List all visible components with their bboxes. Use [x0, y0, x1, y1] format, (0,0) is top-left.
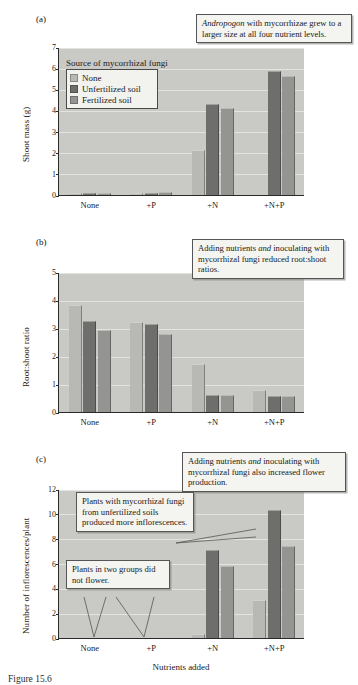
bar — [145, 324, 158, 412]
panel-c-callout-top: Adding nutrients and inoculating with my… — [182, 452, 346, 492]
legend-swatch-none-icon — [70, 74, 78, 82]
legend-label-fertilized: Fertilized soil — [82, 95, 132, 105]
legend-label-unfertilized: Unfertilized soil — [82, 84, 141, 94]
panel-b-callout-and: and — [258, 243, 271, 253]
panel-c-callout-top-and: and — [248, 456, 261, 466]
panel-c-letter: (c) — [36, 454, 46, 464]
y-axis-tick-mark — [56, 490, 59, 491]
bar — [206, 395, 219, 412]
y-axis-tick-mark — [56, 153, 59, 154]
bar — [192, 150, 205, 195]
legend-swatch-fertilized-icon — [70, 96, 78, 104]
panel-a-legend-title: Source of mycorrhizal fungi — [66, 58, 168, 68]
panel-c-callout-mid-text: Plants with mycorrhizal fungi from unfer… — [82, 496, 187, 527]
x-axis-tick-label: None — [81, 643, 99, 653]
bar — [192, 364, 205, 412]
bar — [253, 390, 266, 412]
x-axis-tick-label: +N — [207, 643, 218, 653]
panel-b-plot-area: 012345None+P+N+N+P — [58, 273, 304, 413]
bar — [159, 192, 172, 195]
gridline — [59, 48, 304, 49]
panel-c-callout-low-text: Plants in two groups did not flower. — [72, 564, 156, 585]
y-axis-tick-mark — [56, 90, 59, 91]
y-axis-tick-mark — [56, 539, 59, 540]
bar — [221, 395, 234, 412]
x-axis-tick-label: +P — [146, 417, 156, 427]
legend-item-none: None — [70, 72, 152, 83]
bar — [69, 305, 82, 412]
bar — [206, 104, 219, 195]
panel-a-y-axis-label: Shoot mass (g) — [21, 52, 31, 162]
panel-c-y-axis-label: Number of inflorescences/plant — [21, 486, 31, 634]
x-axis-tick-label: +P — [146, 200, 156, 210]
y-axis-tick-mark — [56, 69, 59, 70]
bar — [83, 321, 96, 412]
x-axis-tick-label: +N+P — [264, 200, 284, 210]
x-axis-tick-label: +N — [207, 200, 218, 210]
bar — [282, 546, 295, 639]
y-axis-tick-mark — [56, 174, 59, 175]
legend-swatch-unfertilized-icon — [70, 85, 78, 93]
bar — [268, 396, 281, 412]
bar — [145, 193, 158, 195]
panel-b-letter: (b) — [36, 237, 47, 247]
bar — [268, 510, 281, 638]
y-axis-tick-mark — [56, 589, 59, 590]
panel-c-leader-lines — [58, 595, 198, 641]
panel-a-letter: (a) — [36, 14, 46, 24]
panel-b-y-axis-label: Root:shoot ratio — [21, 277, 31, 387]
legend-item-unfertilized: Unfertilized soil — [70, 83, 152, 94]
legend-item-fertilized: Fertilized soil — [70, 94, 152, 105]
panel-c-callout-mid: Plants with mycorrhizal fungi from unfer… — [76, 492, 194, 532]
bar — [98, 330, 111, 412]
panel-c-callout-low: Plants in two groups did not flower. — [66, 560, 170, 589]
y-axis-tick-mark — [56, 514, 59, 515]
panel-a: (a) Shoot mass (g) 01234567None+P+N+N+P … — [0, 0, 358, 215]
panel-a-callout-species: Andropogon — [202, 18, 245, 28]
y-axis-tick-mark — [56, 413, 59, 414]
y-axis-tick-mark — [56, 132, 59, 133]
y-axis-tick-mark — [56, 48, 59, 49]
figure-caption: Figure 15.6 — [8, 674, 352, 685]
bar — [130, 322, 143, 412]
bar — [268, 71, 281, 195]
bar — [69, 193, 82, 195]
bar — [282, 396, 295, 412]
y-axis-tick-mark — [56, 385, 59, 386]
bar — [159, 334, 172, 412]
y-axis-tick-mark — [56, 196, 59, 197]
bar — [130, 193, 143, 195]
legend-label-none: None — [82, 73, 102, 83]
panel-b-callout-part1: Adding nutrients — [198, 243, 258, 253]
bar — [221, 108, 234, 195]
x-axis-tick-label: +N+P — [264, 417, 284, 427]
panel-a-callout: Andropogon with mycorrhizae grew to a la… — [196, 14, 352, 43]
y-axis-tick-mark — [56, 357, 59, 358]
bar — [282, 76, 295, 195]
x-axis-tick-label: +N — [207, 417, 218, 427]
panel-c-x-axis-label: Nutrients added — [152, 662, 209, 672]
y-axis-tick-mark — [56, 564, 59, 565]
panel-b-callout: Adding nutrients and inoculating with my… — [192, 239, 344, 279]
gridline — [59, 301, 304, 302]
panel-a-legend: None Unfertilized soil Fertilized soil — [66, 69, 158, 109]
bar — [206, 550, 219, 638]
bar — [83, 193, 96, 195]
panel-c-callout-top-part1: Adding nutrients — [188, 456, 248, 466]
x-axis-tick-label: None — [81, 200, 99, 210]
y-axis-tick-mark — [56, 301, 59, 302]
y-axis-tick-mark — [56, 111, 59, 112]
y-axis-tick-label: 12 — [48, 486, 56, 494]
x-axis-tick-label: None — [81, 417, 99, 427]
panel-b: (b) Root:shoot ratio 012345None+P+N+N+P … — [0, 215, 358, 430]
panel-c: (c) Number of inflorescences/plant 02468… — [0, 430, 358, 681]
x-axis-tick-label: +P — [146, 643, 156, 653]
y-axis-tick-label: 10 — [48, 511, 56, 519]
bar — [253, 600, 266, 638]
y-axis-tick-mark — [56, 273, 59, 274]
x-axis-tick-label: +N+P — [264, 643, 284, 653]
bar — [98, 193, 111, 195]
bar — [221, 566, 234, 638]
y-axis-tick-mark — [56, 329, 59, 330]
